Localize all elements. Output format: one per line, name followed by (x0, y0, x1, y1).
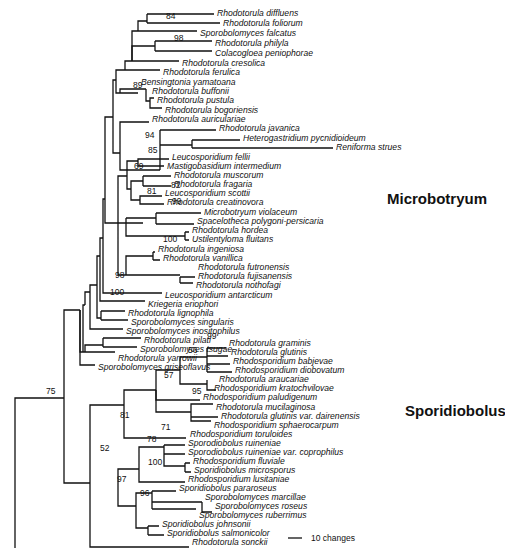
taxon-label: Rhodotorula sonckii (192, 537, 269, 547)
bootstrap-value: 89 (133, 80, 143, 90)
branch (80, 310, 95, 365)
branch (97, 238, 162, 301)
bootstrap-value: 96 (140, 488, 150, 498)
taxon-label: Rhodotorula javanica (219, 123, 300, 133)
bootstrap-value: 69 (134, 161, 144, 171)
taxon-label: Rhodotorula foliorum (223, 18, 303, 28)
bootstrap-value: 78 (147, 434, 157, 444)
taxon-label: Sporobolomyces falcatus (200, 28, 297, 38)
bootstrap-value: 84 (166, 11, 176, 21)
bootstrap-value: 71 (161, 422, 171, 432)
bootstrap-value: 98 (115, 270, 125, 280)
taxon-label: Colacogloea peniophorae (215, 48, 313, 58)
taxon-label: Reniforma strues (336, 142, 402, 152)
bootstrap-value: 100 (110, 287, 124, 297)
bootstrap-value: 75 (46, 386, 56, 396)
bootstrap-value: 81 (147, 186, 157, 196)
bootstrap-value: 98 (174, 33, 184, 43)
taxon-label: Rhodotorula ferulica (163, 67, 240, 77)
branch (15, 398, 64, 548)
taxon-label: Rhodotorula pustula (157, 95, 234, 105)
clade-label: Microbotryum (387, 190, 487, 207)
taxon-label: Sporobolomyces griseoflavus (98, 362, 211, 372)
bootstrap-value: 100 (163, 234, 177, 244)
branch (64, 310, 90, 483)
bootstrap-value: 99 (172, 196, 182, 206)
scale-bar-label: 10 changes (311, 533, 355, 543)
bootstrap-value: 100 (148, 457, 162, 467)
bootstrap-value: 82 (171, 180, 181, 190)
bootstrap-value: 85 (148, 145, 158, 155)
bootstrap-value: 57 (164, 370, 174, 380)
clade-label: Sporidiobolus (405, 402, 505, 419)
taxon-label: Rhodotorula diffluens (217, 8, 299, 18)
bootstrap-value: 81 (120, 410, 130, 420)
taxon-label: Rhodotorula creatinovora (167, 197, 264, 207)
clade-labels: MicrobotryumSporidiobolus (387, 190, 505, 419)
bootstrap-value: 97 (117, 474, 127, 484)
taxon-label: Rhodotorula philyla (215, 38, 289, 48)
branch (136, 506, 164, 535)
bootstrap-value: 95 (192, 386, 202, 396)
bootstrap-value: 56 (188, 345, 198, 355)
bootstrap-value: 99 (207, 331, 217, 341)
scale-bar: 10 changes (288, 533, 355, 543)
taxon-label: Rhodotorula nothofagi (196, 280, 282, 290)
phylogenetic-tree: Rhodotorula diffluensRhodotorula folioru… (0, 0, 505, 559)
bootstrap-value: 94 (145, 130, 155, 140)
taxon-label: Rhodosporidium paludigenum (203, 392, 317, 402)
taxon-label: Ustilentyloma fluitans (192, 234, 274, 244)
bootstrap-value: 52 (100, 443, 110, 453)
